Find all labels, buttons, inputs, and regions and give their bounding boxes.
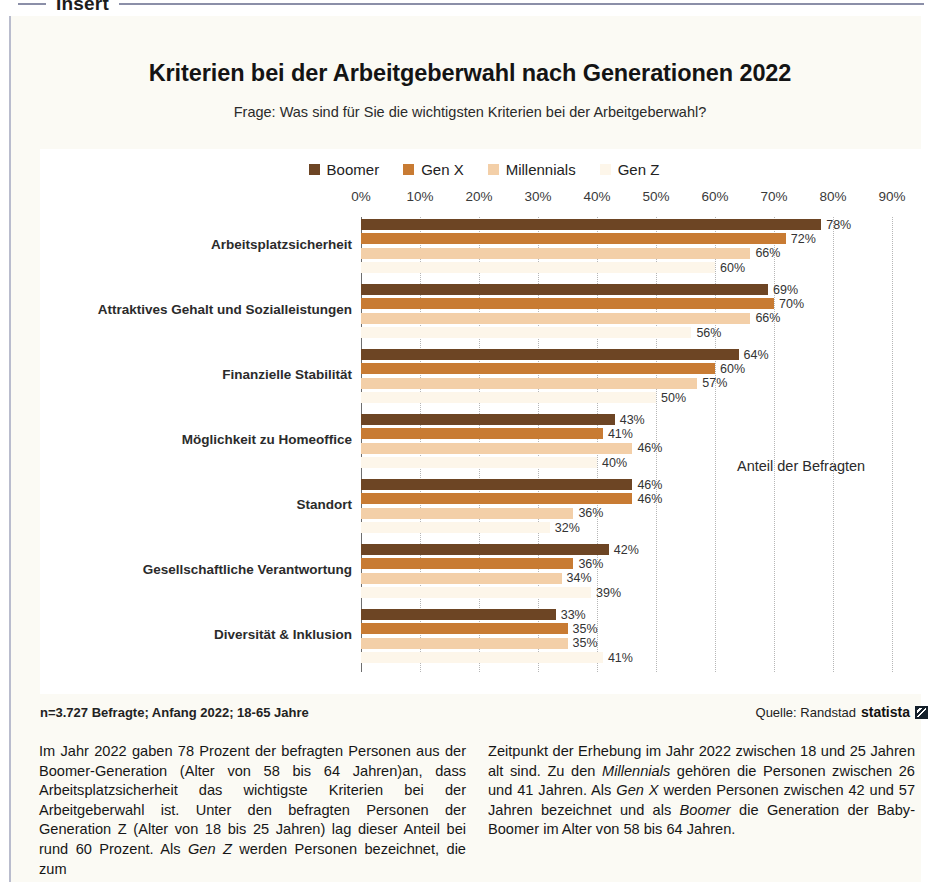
bar-value-label: 43% <box>615 413 645 427</box>
bar-gen-z[interactable] <box>361 262 715 273</box>
bar-value-label: 64% <box>739 348 769 362</box>
legend-item-boomer[interactable]: Boomer <box>309 161 380 178</box>
x-axis-tick-labels: 0%10%20%30%40%50%60%70%80%90% <box>40 189 928 209</box>
bar-value-label: 78% <box>821 218 851 232</box>
bar-row: 36% <box>40 558 928 569</box>
bar-millennials[interactable] <box>361 313 750 324</box>
bar-value-label: 32% <box>550 521 580 535</box>
statista-logo-icon <box>915 706 928 719</box>
bar-group: Finanzielle Stabilität64%60%57%50% <box>40 349 928 403</box>
legend-swatch-icon <box>403 164 414 175</box>
bar-gen-z[interactable] <box>361 457 597 468</box>
legend-label: Boomer <box>327 161 380 178</box>
bar-row: 57% <box>40 378 928 389</box>
bar-row: 64% <box>40 349 928 360</box>
bar-value-label: 70% <box>774 297 804 311</box>
bar-value-label: 66% <box>750 246 780 260</box>
bar-row: 36% <box>40 508 928 519</box>
legend-label: Millennials <box>506 161 576 178</box>
bar-boomer[interactable] <box>361 349 739 360</box>
bar-row: 69% <box>40 284 928 295</box>
bar-gen-x[interactable] <box>361 233 786 244</box>
article-body: Im Jahr 2022 gaben 78 Prozent der befrag… <box>39 742 915 879</box>
bar-gen-x[interactable] <box>361 428 603 439</box>
legend-swatch-icon <box>600 164 611 175</box>
bar-gen-x[interactable] <box>361 558 573 569</box>
chart-legend: BoomerGen XMillennialsGen Z <box>40 161 928 178</box>
bar-gen-z[interactable] <box>361 652 603 663</box>
bar-gen-x[interactable] <box>361 298 774 309</box>
bar-row: 72% <box>40 233 928 244</box>
source-attribution: Quelle: Randstad statista <box>756 704 928 720</box>
bar-group: Möglichkeit zu Homeoffice43%41%46%40% <box>40 414 928 468</box>
bar-group: Arbeitsplatzsicherheit78%72%66%60% <box>40 219 928 273</box>
chart-plot-area: Anteil der Befragten Arbeitsplatzsicherh… <box>40 217 928 672</box>
bar-gen-z[interactable] <box>361 392 656 403</box>
legend-label: Gen Z <box>618 161 660 178</box>
page-title: Kriterien bei der Arbeitgeberwahl nach G… <box>20 60 920 87</box>
bar-row: 32% <box>40 522 928 533</box>
bar-row: 33% <box>40 609 928 620</box>
bar-value-label: 46% <box>632 478 662 492</box>
bar-gen-x[interactable] <box>361 623 568 634</box>
bar-boomer[interactable] <box>361 219 821 230</box>
bar-value-label: 56% <box>691 326 721 340</box>
bar-value-label: 33% <box>556 608 586 622</box>
bar-value-label: 41% <box>603 427 633 441</box>
x-tick-20: 20% <box>465 189 492 204</box>
legend-swatch-icon <box>488 164 499 175</box>
bar-millennials[interactable] <box>361 508 573 519</box>
x-tick-80: 80% <box>819 189 846 204</box>
section-rule-left <box>18 3 46 5</box>
insert-section-header: Insert <box>0 0 928 17</box>
sample-size-note: n=3.727 Befragte; Anfang 2022; 18-65 Jah… <box>40 705 309 720</box>
bar-millennials[interactable] <box>361 378 697 389</box>
bar-row: 42% <box>40 544 928 555</box>
bar-row: 50% <box>40 392 928 403</box>
page-sheet: Kriterien bei der Arbeitgeberwahl nach G… <box>9 16 921 882</box>
bar-millennials[interactable] <box>361 248 750 259</box>
legend-item-gen-x[interactable]: Gen X <box>403 161 464 178</box>
chart-footer: n=3.727 Befragte; Anfang 2022; 18-65 Jah… <box>40 704 928 720</box>
bar-value-label: 35% <box>568 622 598 636</box>
x-tick-40: 40% <box>583 189 610 204</box>
bar-group: Diversität & Inklusion33%35%35%41% <box>40 609 928 663</box>
infographic-card: Kriterien bei der Arbeitgeberwahl nach G… <box>20 32 928 732</box>
bar-millennials[interactable] <box>361 443 632 454</box>
bar-boomer[interactable] <box>361 284 768 295</box>
x-tick-50: 50% <box>642 189 669 204</box>
legend-item-millennials[interactable]: Millennials <box>488 161 576 178</box>
x-tick-70: 70% <box>760 189 787 204</box>
bar-value-label: 60% <box>715 362 745 376</box>
bar-row: 41% <box>40 652 928 663</box>
bar-boomer[interactable] <box>361 544 609 555</box>
bar-millennials[interactable] <box>361 638 568 649</box>
bar-row: 60% <box>40 262 928 273</box>
bar-row: 43% <box>40 414 928 425</box>
bar-row: 56% <box>40 327 928 338</box>
legend-swatch-icon <box>309 164 320 175</box>
legend-label: Gen X <box>421 161 464 178</box>
bar-millennials[interactable] <box>361 573 562 584</box>
bar-value-label: 46% <box>632 441 662 455</box>
legend-item-gen-z[interactable]: Gen Z <box>600 161 660 178</box>
bar-group: Gesellschaftliche Verantwortung42%36%34%… <box>40 544 928 598</box>
bar-value-label: 36% <box>573 557 603 571</box>
bar-gen-z[interactable] <box>361 522 550 533</box>
bar-gen-x[interactable] <box>361 363 715 374</box>
bar-boomer[interactable] <box>361 609 556 620</box>
bar-gen-z[interactable] <box>361 327 691 338</box>
bar-value-label: 35% <box>568 636 598 650</box>
bar-gen-z[interactable] <box>361 587 591 598</box>
bar-row: 46% <box>40 493 928 504</box>
source-label: Quelle: Randstad <box>756 705 856 720</box>
bar-row: 34% <box>40 573 928 584</box>
bar-row: 46% <box>40 479 928 490</box>
bar-gen-x[interactable] <box>361 493 632 504</box>
bar-value-label: 57% <box>697 376 727 390</box>
bar-boomer[interactable] <box>361 414 615 425</box>
bar-boomer[interactable] <box>361 479 632 490</box>
x-tick-90: 90% <box>878 189 905 204</box>
section-rule-right <box>119 3 924 5</box>
bar-value-label: 72% <box>786 232 816 246</box>
